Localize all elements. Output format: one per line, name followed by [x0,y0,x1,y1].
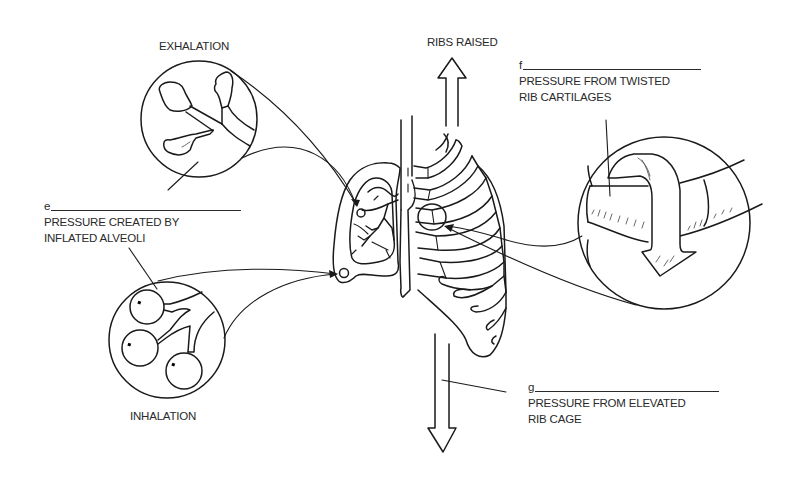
blank-line-g[interactable] [535,391,719,392]
cartilage-connector-top [448,226,582,246]
lung-drawing [333,163,400,283]
rib-cartilage-detail-circle [578,137,762,309]
diagram-artwork [0,0,802,495]
inhalation-detail-circle [109,282,225,398]
inhalation-connector-bottom [224,274,336,338]
caption-e-line1: PRESSURE CREATED BY [44,215,179,229]
trachea-sternum [400,116,415,297]
exhalation-label: EXHALATION [159,39,229,53]
answer-blank-g[interactable]: g [528,381,719,393]
ribs-raised-label: RIBS RAISED [427,35,498,49]
exhalation-detail-circle [141,61,257,190]
inhalation-connector-top [158,269,336,281]
exhalation-connector-bottom [242,147,356,205]
leader-line-g [442,380,506,392]
blank-letter-g: g [528,381,534,393]
caption-f-line1: PRESSURE FROM TWISTED [519,74,670,88]
caption-f-line2: RIB CARTILAGES [519,90,611,104]
blank-line-e[interactable] [51,210,241,211]
leader-line-e [129,248,157,289]
cartilage-connector-bottom [448,228,636,305]
caption-g-line2: RIB CAGE [528,412,581,426]
answer-blank-f[interactable]: f [519,59,701,71]
blank-letter-f: f [519,59,522,71]
downward-arrow [428,334,456,452]
answer-blank-e[interactable]: e [44,200,241,212]
blank-letter-e: e [44,200,50,212]
ribs-raised-arrow [438,58,466,126]
caption-e-line2: INFLATED ALVEOLI [44,231,145,245]
caption-g-line1: PRESSURE FROM ELEVATED [528,396,685,410]
rib-cage [414,134,506,357]
inhalation-label: INHALATION [130,409,196,423]
breathing-diagram: EXHALATION INHALATION RIBS RAISED e PRES… [0,0,802,495]
blank-line-f[interactable] [523,69,701,70]
